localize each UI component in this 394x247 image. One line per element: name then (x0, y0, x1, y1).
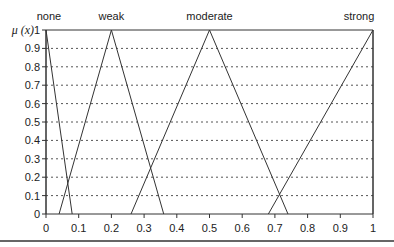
x-tick-label: 0.3 (136, 222, 151, 234)
label-none: none (37, 10, 61, 22)
label-strong: strong (344, 10, 375, 22)
x-tick-label: 0.7 (267, 222, 282, 234)
y-tick-label: 0.7 (25, 79, 40, 91)
x-tick-label: 0 (43, 222, 49, 234)
y-tick-label: 0.8 (25, 61, 40, 73)
y-tick-label: 0 (34, 208, 40, 220)
y-tick-label: 0.4 (25, 134, 40, 146)
y-tick-label: 0.2 (25, 171, 40, 183)
membership-none (46, 30, 72, 214)
x-tick-label: 0.9 (333, 222, 348, 234)
y-tick-label: 0.9 (25, 42, 40, 54)
x-tick-label: 0.2 (104, 222, 119, 234)
membership-moderate (131, 30, 288, 214)
label-moderate: moderate (186, 10, 232, 22)
y-tick-label: 0.5 (25, 116, 40, 128)
x-tick-label: 0.5 (202, 222, 217, 234)
y-axis-label: μ (x) (11, 23, 34, 37)
x-tick-label: 0.8 (300, 222, 315, 234)
x-tick-label: 0.4 (169, 222, 184, 234)
y-tick-label: 0.6 (25, 98, 40, 110)
x-tick-label: 0.1 (71, 222, 86, 234)
y-tick-label: 0.3 (25, 153, 40, 165)
label-weak: weak (98, 10, 125, 22)
x-tick-label: 0.6 (235, 222, 250, 234)
y-tick-label: 1 (34, 24, 40, 36)
x-tick-label: 1 (370, 222, 376, 234)
fuzzy-membership-chart: 00.10.20.30.40.50.60.70.80.9100.10.20.30… (0, 0, 394, 247)
y-tick-label: 0.1 (25, 190, 40, 202)
